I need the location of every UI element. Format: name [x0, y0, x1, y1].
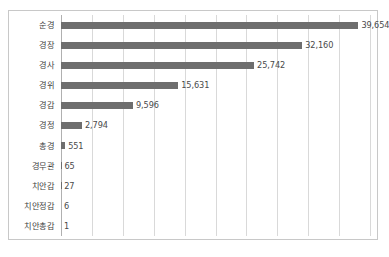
bar-row: 경무관65 [9, 156, 370, 176]
bar-rows: 순경39,654경장32,160경사25,742경위15,631경감9,596경… [9, 15, 370, 236]
bar-value-label: 65 [64, 162, 74, 170]
bar[interactable] [61, 42, 302, 49]
category-label: 경무관 [9, 162, 61, 170]
bar-row: 치안총감1 [9, 216, 370, 236]
bar-row: 경위15,631 [9, 75, 370, 95]
bar-value-label: 27 [64, 182, 74, 190]
bar-value-label: 551 [68, 142, 83, 150]
bar[interactable] [61, 22, 358, 29]
bar[interactable] [61, 82, 178, 89]
category-label: 경사 [9, 61, 61, 69]
bar-row: 순경39,654 [9, 15, 370, 35]
category-label: 치안감 [9, 182, 61, 190]
bar[interactable] [61, 102, 133, 109]
bar-track: 6 [61, 196, 370, 216]
category-label: 총경 [9, 142, 61, 150]
bar[interactable] [61, 142, 65, 149]
category-label: 경감 [9, 101, 61, 109]
chart-frame: 순경39,654경장32,160경사25,742경위15,631경감9,596경… [8, 10, 378, 240]
bar-value-label: 6 [64, 202, 69, 210]
bar-track: 65 [61, 156, 370, 176]
bar-row: 경장32,160 [9, 35, 370, 55]
bar-track: 32,160 [61, 35, 370, 55]
category-label: 치안총감 [9, 222, 61, 230]
category-label: 치안정감 [9, 202, 61, 210]
bar-value-label: 15,631 [181, 81, 209, 89]
plot-area: 순경39,654경장32,160경사25,742경위15,631경감9,596경… [9, 11, 377, 239]
category-label: 경정 [9, 121, 61, 129]
bar-value-label: 1 [64, 222, 69, 230]
bar-row: 총경551 [9, 136, 370, 156]
bar-value-label: 39,654 [361, 21, 389, 29]
bar-row: 치안감27 [9, 176, 370, 196]
bar-value-label: 25,742 [257, 61, 285, 69]
bar-value-label: 2,794 [85, 121, 108, 129]
bar-row: 경사25,742 [9, 55, 370, 75]
category-label: 경위 [9, 81, 61, 89]
bar-track: 551 [61, 136, 370, 156]
bar[interactable] [61, 62, 254, 69]
bar-track: 39,654 [61, 15, 370, 35]
gridline [370, 15, 371, 236]
bar-track: 27 [61, 176, 370, 196]
category-label: 순경 [9, 21, 61, 29]
bar-track: 15,631 [61, 75, 370, 95]
bar[interactable] [61, 122, 82, 129]
bar-value-label: 9,596 [136, 101, 159, 109]
bar-row: 경정2,794 [9, 115, 370, 135]
bar-track: 9,596 [61, 95, 370, 115]
bar-track: 2,794 [61, 115, 370, 135]
category-label: 경장 [9, 41, 61, 49]
bar-track: 25,742 [61, 55, 370, 75]
bar-row: 치안정감6 [9, 196, 370, 216]
bar-track: 1 [61, 216, 370, 236]
bar-value-label: 32,160 [305, 41, 333, 49]
bar-row: 경감9,596 [9, 95, 370, 115]
